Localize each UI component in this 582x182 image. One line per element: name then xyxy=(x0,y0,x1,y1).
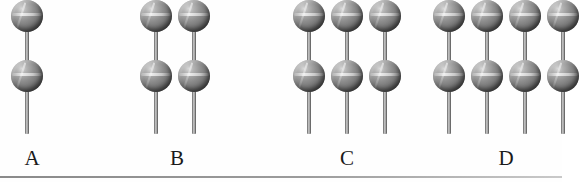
column-stack-c xyxy=(290,0,404,140)
sphere-icon xyxy=(369,0,401,32)
sphere-icon xyxy=(293,60,325,92)
group-label-d: D xyxy=(486,148,526,169)
sphere-icon xyxy=(140,60,172,92)
sphere-icon xyxy=(509,0,541,32)
lollipop-column xyxy=(137,0,175,140)
sphere-icon xyxy=(11,60,43,92)
column-stack-b xyxy=(137,0,213,140)
sphere-icon xyxy=(331,0,363,32)
lollipop-column xyxy=(506,0,544,140)
lollipop-column xyxy=(544,0,582,140)
sphere-icon xyxy=(547,60,579,92)
sphere-icon xyxy=(471,0,503,32)
group-label-c: C xyxy=(327,148,367,169)
sphere-icon xyxy=(509,60,541,92)
lollipop-column xyxy=(328,0,366,140)
column-stack-d xyxy=(430,0,582,140)
bottom-rule-divider xyxy=(0,176,562,178)
column-stack-a xyxy=(8,0,46,140)
sphere-icon xyxy=(547,0,579,32)
lollipop-column xyxy=(366,0,404,140)
sphere-icon xyxy=(11,0,43,32)
sphere-icon xyxy=(178,0,210,32)
sphere-icon xyxy=(369,60,401,92)
sphere-icon xyxy=(433,0,465,32)
lollipop-column xyxy=(468,0,506,140)
lollipop-column xyxy=(430,0,468,140)
sphere-icon xyxy=(293,0,325,32)
sphere-icon xyxy=(471,60,503,92)
sphere-icon xyxy=(140,0,172,32)
group-label-b: B xyxy=(157,148,197,169)
lollipop-column xyxy=(290,0,328,140)
lollipop-column xyxy=(175,0,213,140)
sphere-icon xyxy=(433,60,465,92)
lollipop-column xyxy=(8,0,46,140)
sphere-icon xyxy=(331,60,363,92)
group-label-a: A xyxy=(12,148,52,169)
sphere-icon xyxy=(178,60,210,92)
